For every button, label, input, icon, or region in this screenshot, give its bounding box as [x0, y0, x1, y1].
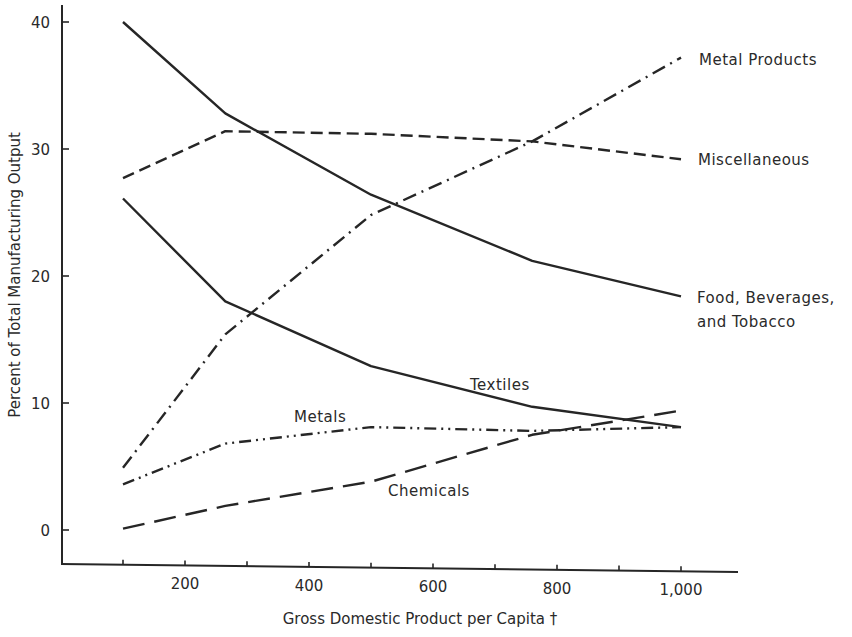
y-ticks: 010203040 — [31, 14, 69, 540]
series-line-textiles — [123, 199, 681, 428]
x-tick-label: 200 — [171, 575, 200, 593]
series-label: Metal Products — [699, 51, 817, 69]
series-label: and Tobacco — [697, 313, 796, 331]
y-tick-label: 30 — [31, 141, 50, 159]
x-tick-label: 600 — [419, 578, 448, 596]
y-tick-label: 40 — [31, 14, 50, 32]
series-line-food-beverages-and-tobacco — [123, 22, 681, 296]
x-axis-line — [61, 564, 738, 572]
y-tick-label: 10 — [31, 395, 50, 413]
x-tick-label: 800 — [543, 580, 572, 598]
x-axis-title: Gross Domestic Product per Capita † — [283, 610, 558, 628]
chart-canvas: 010203040 2004006008001,000 Food, Bevera… — [0, 0, 852, 637]
y-tick-label: 0 — [40, 522, 50, 540]
series-line-metals — [123, 427, 681, 484]
series-lines — [123, 22, 681, 529]
series-label: Food, Beverages, — [697, 289, 835, 307]
series-label: Miscellaneous — [698, 151, 810, 169]
x-tick-label: 1,000 — [660, 581, 703, 599]
series-line-metal-products — [123, 58, 681, 468]
axes: 010203040 2004006008001,000 — [31, 5, 738, 599]
series-label: Textiles — [469, 376, 530, 394]
y-axis-title: Percent of Total Manufacturing Output — [6, 132, 24, 418]
x-tick-label: 400 — [295, 577, 324, 595]
y-tick-label: 20 — [31, 268, 50, 286]
series-label: Metals — [294, 408, 346, 426]
series-label: Chemicals — [388, 482, 470, 500]
series-line-miscellaneous — [123, 131, 681, 178]
line-chart: 010203040 2004006008001,000 Food, Bevera… — [0, 0, 852, 637]
series-labels: Food, Beverages,and TobaccoMiscellaneous… — [294, 51, 835, 500]
